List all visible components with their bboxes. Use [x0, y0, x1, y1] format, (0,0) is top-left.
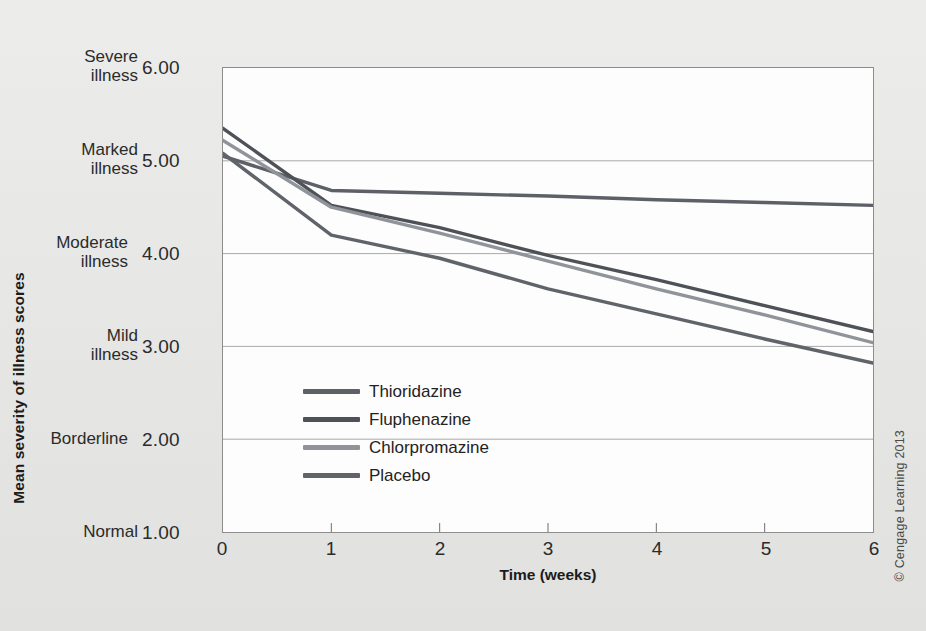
legend-swatch-fluphenazine	[303, 417, 360, 422]
y-tick-value-5: 5.00	[142, 150, 200, 172]
x-tick-4: 4	[642, 538, 672, 560]
legend-swatch-chlorpromazine	[303, 445, 360, 450]
legend-item-fluphenazine[interactable]: Fluphenazine	[303, 406, 533, 434]
legend-item-placebo[interactable]: Placebo	[303, 462, 533, 490]
y-tick-value-6: 6.00	[142, 57, 200, 79]
legend-label: Placebo	[369, 462, 430, 490]
y-category-line-1: Mild	[18, 326, 138, 345]
series-line-placebo	[223, 153, 873, 363]
legend-label: Thioridazine	[369, 378, 462, 406]
x-tick-6: 6	[859, 538, 889, 560]
y-category-line-2: illness	[18, 159, 138, 178]
y-axis-title: Mean severity of illness scores	[10, 238, 28, 538]
series-line-fluphenazine	[223, 128, 873, 331]
legend-item-thioridazine[interactable]: Thioridazine	[303, 378, 533, 406]
legend-swatch-thioridazine	[303, 389, 360, 394]
y-category-line-2: illness	[18, 345, 138, 364]
y-category-label-marked: Marked illness	[18, 140, 138, 178]
y-category-line-1: Severe	[18, 47, 138, 66]
legend-label: Chlorpromazine	[369, 434, 489, 462]
legend-label: Fluphenazine	[369, 406, 471, 434]
y-tick-value-4: 4.00	[142, 243, 200, 265]
y-category-label-mild: Mild illness	[18, 326, 138, 364]
x-axis-title: Time (weeks)	[222, 566, 874, 584]
x-tick-5: 5	[751, 538, 781, 560]
y-category-label-normal: Normal	[18, 522, 138, 541]
legend-swatch-placebo	[303, 473, 360, 478]
legend-item-chlorpromazine[interactable]: Chlorpromazine	[303, 434, 533, 462]
y-tick-value-3: 3.00	[142, 336, 200, 358]
y-tick-value-1: 1.00	[142, 522, 200, 544]
y-category-line-1: Marked	[18, 140, 138, 159]
line-chart-figure: 6.00 5.00 4.00 3.00 2.00 1.00 Severe ill…	[0, 0, 926, 631]
series-lines	[223, 128, 873, 363]
y-tick-value-2: 2.00	[142, 429, 200, 451]
copyright-credit: © Cengage Learning 2013	[893, 430, 907, 581]
x-tick-2: 2	[425, 538, 455, 560]
y-category-line-1: Normal	[18, 522, 138, 541]
series-line-chlorpromazine	[223, 140, 873, 342]
x-tick-3: 3	[533, 538, 563, 560]
chart-legend: Thioridazine Fluphenazine Chlorpromazine…	[303, 378, 533, 490]
x-tick-1: 1	[316, 538, 346, 560]
y-category-line-2: illness	[18, 66, 138, 85]
y-category-label-severe: Severe illness	[18, 47, 138, 85]
x-tick-0: 0	[207, 538, 237, 560]
